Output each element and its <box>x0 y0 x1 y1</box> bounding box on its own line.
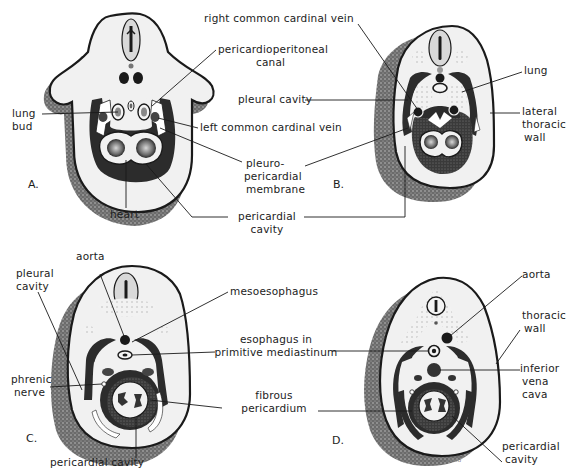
label-aorta-c: aorta <box>76 250 105 263</box>
label-line: esophagus in <box>214 333 338 346</box>
label-pericardial-cavity-ab: pericardial cavity <box>230 210 304 236</box>
label-line: pericardial <box>502 440 560 453</box>
label-pericardial-cavity-d: pericardial cavity <box>502 440 560 466</box>
label-line: pericardial <box>244 170 305 183</box>
label-pleural-cavity-b: pleural cavity <box>238 93 312 106</box>
label-line: pericardium <box>228 402 320 415</box>
label-phrenic-nerve: phrenic nerve <box>11 373 52 399</box>
label-line: phrenic <box>11 373 52 386</box>
panel-a-drawing <box>44 13 214 226</box>
label-line: cava <box>520 388 559 401</box>
panel-b-drawing <box>374 26 494 202</box>
label-right-common-cardinal-vein: right common cardinal vein <box>204 12 354 25</box>
panel-d-drawing <box>364 278 500 466</box>
embryo-cross-section-figure: Reid lung bud pericardioperitoneal canal… <box>0 0 581 475</box>
label-line: wall <box>522 322 566 335</box>
label-line: pericardial <box>230 210 304 223</box>
label-line: pericardioperitoneal <box>218 43 328 56</box>
label-line: cavity <box>230 223 304 236</box>
panel-c-drawing <box>51 266 190 466</box>
label-heart: heart <box>110 208 139 221</box>
label-line: thoracic <box>522 118 566 131</box>
label-line: cavity <box>502 453 560 466</box>
label-thoracic-wall: thoracic wall <box>522 309 566 335</box>
panel-label-b: B. <box>333 178 344 191</box>
panel-label-c: C. <box>26 432 37 445</box>
label-pleural-cavity-c: pleural cavity <box>16 267 54 293</box>
label-line: canal <box>218 56 328 69</box>
label-fibrous-pericardium: fibrous pericardium <box>228 389 320 415</box>
label-aorta-d: aorta <box>522 268 551 281</box>
label-mesoesophagus: mesoesophagus <box>230 285 318 298</box>
label-pleuro-pericardial-membrane: pleuro- pericardial membrane <box>244 157 305 196</box>
label-pericardioperitoneal-canal: pericardioperitoneal canal <box>218 43 328 69</box>
label-line: primitive mediastinum <box>214 346 338 359</box>
panel-label-a: A. <box>28 178 39 191</box>
label-line: membrane <box>244 183 305 196</box>
label-line: cavity <box>16 280 54 293</box>
label-lateral-thoracic-wall: lateral thoracic wall <box>522 105 566 144</box>
label-line: pleural <box>16 267 54 280</box>
label-line: lateral <box>522 105 566 118</box>
label-line: vena <box>520 375 559 388</box>
label-pericardial-cavity-c: pericardial cavity <box>50 456 144 469</box>
label-line: bud <box>12 120 36 133</box>
label-line: inferior <box>520 362 559 375</box>
label-esophagus-in-primitive-mediastinum: esophagus in primitive mediastinum <box>214 333 338 359</box>
label-line: lung <box>12 107 36 120</box>
artist-signature: Reid <box>448 456 462 463</box>
label-line: thoracic <box>522 309 566 322</box>
label-lung-bud: lung bud <box>12 107 36 133</box>
label-line: fibrous <box>228 389 320 402</box>
label-inferior-vena-cava: inferior vena cava <box>520 362 559 401</box>
label-line: nerve <box>11 386 52 399</box>
panel-label-d: D. <box>332 434 344 447</box>
label-line: pleuro- <box>244 157 305 170</box>
label-left-common-cardinal-vein: left common cardinal vein <box>200 121 342 134</box>
label-lung: lung <box>524 64 548 77</box>
label-line: wall <box>522 131 566 144</box>
